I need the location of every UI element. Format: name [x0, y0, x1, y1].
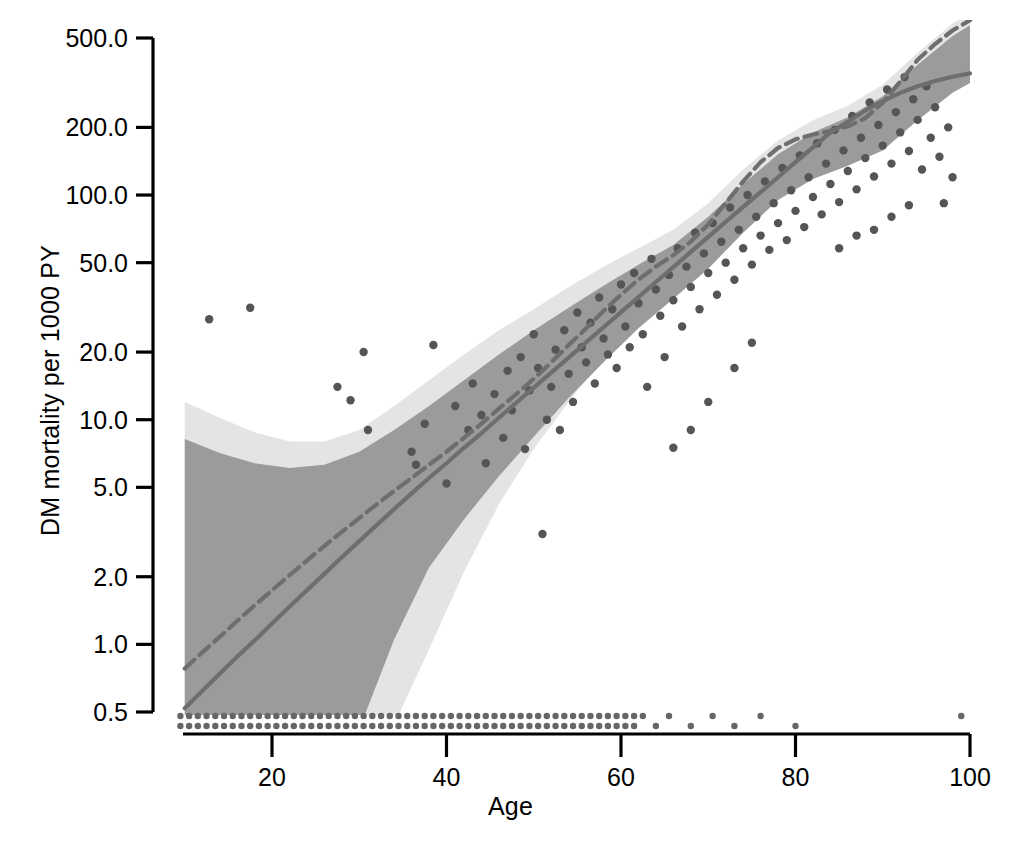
scatter-point: [769, 199, 777, 207]
rug-point: [474, 723, 480, 729]
scatter-point: [687, 283, 695, 291]
rug-point: [212, 723, 218, 729]
scatter-point: [591, 379, 599, 387]
rug-point: [360, 713, 366, 719]
rug-point: [238, 713, 244, 719]
rug-point: [596, 723, 602, 729]
scatter-point: [700, 249, 708, 257]
rug-point: [491, 713, 497, 719]
scatter-point: [442, 479, 450, 487]
scatter-point: [490, 390, 498, 398]
scatter-point: [612, 364, 620, 372]
scatter-point: [935, 153, 943, 161]
scatter-point: [573, 308, 581, 316]
rug-point: [430, 723, 436, 729]
rug-point: [343, 713, 349, 719]
rug-point: [230, 713, 236, 719]
scatter-point: [826, 180, 834, 188]
y-tick-label: 20.0: [79, 338, 128, 366]
rug-point: [413, 723, 419, 729]
rug-point: [430, 713, 436, 719]
rug-point: [613, 713, 619, 719]
scatter-point: [931, 103, 939, 111]
scatter-point: [626, 343, 634, 351]
rug-point: [500, 713, 506, 719]
rug-point: [465, 723, 471, 729]
scatter-point: [887, 159, 895, 167]
rug-point: [709, 713, 715, 719]
rug-point: [579, 723, 585, 729]
rug-point: [186, 713, 192, 719]
rug-point: [308, 723, 314, 729]
scatter-point: [748, 339, 756, 347]
rug-point: [439, 713, 445, 719]
rug-point: [177, 713, 183, 719]
scatter-point: [468, 379, 476, 387]
rug-point: [387, 713, 393, 719]
rug-point: [517, 713, 523, 719]
rug-point: [230, 723, 236, 729]
rug-point: [465, 713, 471, 719]
rug-point: [587, 723, 593, 729]
scatter-point: [530, 330, 538, 338]
rug-point: [631, 723, 637, 729]
scatter-point: [682, 262, 690, 270]
rug-point: [483, 723, 489, 729]
rug-point: [291, 713, 297, 719]
scatter-point: [879, 141, 887, 149]
scatter-point: [870, 226, 878, 234]
scatter-point: [564, 370, 572, 378]
scatter-point: [556, 426, 564, 434]
chart-figure: 0.51.02.05.010.020.050.0100.0200.0500.02…: [0, 0, 1021, 852]
rug-point: [369, 723, 375, 729]
rug-point: [570, 713, 576, 719]
scatter-point: [521, 445, 529, 453]
scatter-point: [874, 121, 882, 129]
rug-point: [958, 713, 964, 719]
rug-point: [544, 713, 550, 719]
scatter-point: [870, 172, 878, 180]
scatter-point: [621, 322, 629, 330]
rug-point: [561, 723, 567, 729]
scatter-point: [364, 426, 372, 434]
rug-point: [256, 713, 262, 719]
rug-point: [613, 723, 619, 729]
scatter-point: [739, 244, 747, 252]
scatter-point: [669, 296, 677, 304]
scatter-point: [547, 383, 555, 391]
scatter-point: [604, 350, 612, 358]
scatter-point: [857, 133, 865, 141]
rug-point: [587, 713, 593, 719]
scatter-point: [477, 411, 485, 419]
rug-point: [448, 713, 454, 719]
scatter-point: [569, 398, 577, 406]
rug-point: [317, 723, 323, 729]
rug-point: [203, 723, 209, 729]
x-tick-label: 40: [433, 763, 461, 791]
rug-point: [247, 723, 253, 729]
scatter-point: [420, 419, 428, 427]
rug-point: [308, 713, 314, 719]
rug-point: [247, 713, 253, 719]
rug-point: [509, 713, 515, 719]
rug-point: [326, 713, 332, 719]
scatter-point: [205, 315, 213, 323]
rug-point: [326, 723, 332, 729]
y-tick-label: 1.0: [93, 630, 128, 658]
x-tick-label: 100: [949, 763, 991, 791]
inner-confidence-band: [185, 25, 970, 729]
rug-point: [666, 713, 672, 719]
scatter-point: [346, 396, 354, 404]
scatter-point: [599, 334, 607, 342]
rug-point: [421, 723, 427, 729]
scatter-point: [482, 459, 490, 467]
rug-point: [395, 723, 401, 729]
scatter-point: [429, 341, 437, 349]
rug-point: [369, 713, 375, 719]
rug-point: [500, 723, 506, 729]
rug-point: [757, 713, 763, 719]
rug-point: [334, 713, 340, 719]
scatter-point: [412, 461, 420, 469]
scatter-point: [765, 246, 773, 254]
rug-point: [221, 713, 227, 719]
